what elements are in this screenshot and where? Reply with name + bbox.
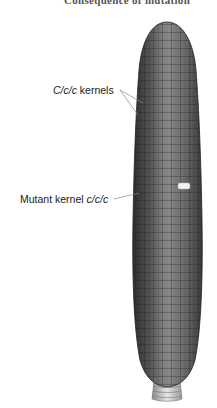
label-normal-kernels: C/c/c kernels [53, 84, 114, 96]
label-mutant-prefix: Mutant kernel [20, 193, 87, 205]
label-mutant-kernel: Mutant kernel c/c/c [20, 193, 108, 205]
corn-ear [120, 15, 217, 395]
mutant-kernel-marker [178, 183, 190, 189]
genotype-mutant: c/c/c [87, 193, 109, 205]
label-normal-suffix: kernels [77, 84, 114, 96]
genotype-normal: C/c/c [53, 84, 77, 96]
